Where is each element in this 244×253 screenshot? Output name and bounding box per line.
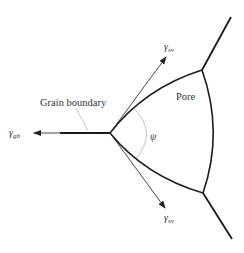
grain-boundary-leader [76,108,88,131]
lower-grain-boundary [203,193,232,239]
dihedral-angle-diagram: Grain boundary Pore ψ γgb γsv γsv [0,0,244,253]
gamma-sv-upper-arrow [110,57,166,133]
gamma-sv-lower-label: γsv [164,212,175,225]
pore-right-boundary [202,70,213,193]
grain-boundary-label: Grain boundary [40,97,107,108]
psi-label: ψ [150,131,157,142]
psi-angle-arc [134,108,147,158]
gamma-gb-label: γgb [9,127,20,140]
gamma-sv-upper-subscript: sv [168,46,175,54]
gamma-sv-lower-subscript: sv [168,217,175,225]
upper-grain-boundary [202,17,231,70]
pore-lower-boundary [110,133,203,193]
gamma-sv-lower-arrow [110,133,165,208]
pore-label: Pore [176,91,196,102]
gamma-gb-subscript: gb [13,132,21,140]
gamma-sv-upper-label: γsv [164,41,175,54]
diagram-canvas: Grain boundary Pore ψ γgb γsv γsv [0,0,244,253]
